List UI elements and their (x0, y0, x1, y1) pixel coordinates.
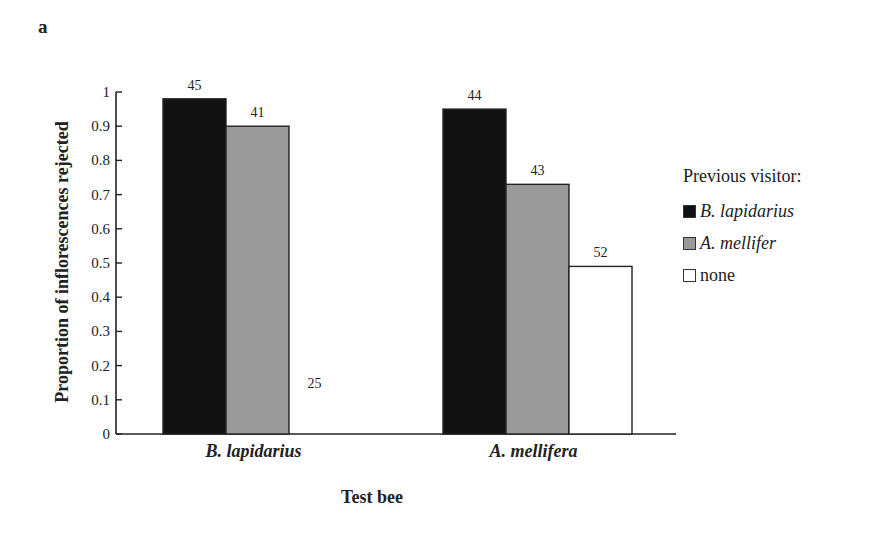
y-tick-label: 0.6 (70, 220, 110, 237)
legend-swatch-icon (683, 205, 696, 218)
y-tick-label: 0 (70, 426, 110, 443)
y-tick-label: 0.8 (70, 152, 110, 169)
bar-count-label: 25 (295, 376, 335, 392)
y-tick-label: 0.9 (70, 118, 110, 135)
y-tick-label: 1 (70, 84, 110, 101)
bar-count-label: 43 (518, 163, 558, 179)
legend: Previous visitor: B. lapidariusA. mellif… (683, 166, 802, 295)
bar (569, 266, 632, 434)
legend-swatch-icon (683, 269, 696, 282)
x-category-label: A. mellifera (490, 441, 578, 462)
y-tick-label: 0.1 (70, 391, 110, 408)
bar-count-label: 52 (581, 245, 621, 261)
y-tick-label: 0.3 (70, 323, 110, 340)
legend-item: none (683, 263, 802, 287)
legend-swatch-icon (683, 237, 696, 250)
legend-label: B. lapidarius (700, 201, 794, 222)
x-axis-title: Test bee (341, 487, 403, 508)
bar (163, 99, 226, 434)
bars (163, 99, 632, 434)
legend-title: Previous visitor: (683, 166, 802, 187)
bar (506, 184, 569, 434)
y-tick-label: 0.5 (70, 255, 110, 272)
bar-count-label: 41 (238, 105, 278, 121)
legend-label: none (700, 265, 735, 286)
legend-item: B. lapidarius (683, 199, 802, 223)
x-category-label: B. lapidarius (205, 441, 301, 462)
bar (226, 126, 289, 434)
legend-item: A. mellifer (683, 231, 802, 255)
bar-count-label: 45 (175, 78, 215, 94)
y-tick-label: 0.4 (70, 289, 110, 306)
bar (443, 109, 506, 434)
y-tick-label: 0.7 (70, 186, 110, 203)
bar-count-label: 44 (455, 88, 495, 104)
legend-label: A. mellifer (700, 233, 776, 254)
y-tick-label: 0.2 (70, 357, 110, 374)
